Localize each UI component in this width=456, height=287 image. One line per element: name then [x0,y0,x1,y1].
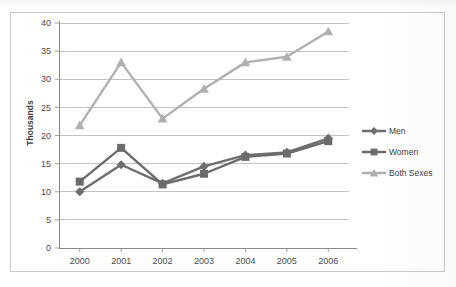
y-tick-label: 5 [46,215,51,225]
legend-label: Both Sexes [389,168,432,178]
legend-item-both-sexes[interactable]: Both Sexes [363,168,432,178]
legend-item-women[interactable]: Women [363,147,418,157]
data-point-marker [117,144,125,152]
line-chart: 0510152025303540 20002001200220032004200… [11,13,446,273]
data-point-marker [324,137,332,145]
x-tick-label: 2000 [70,256,90,266]
chart-plot-area: 0510152025303540 20002001200220032004200… [11,13,446,273]
data-point-marker [241,153,249,161]
y-tick-label: 15 [41,159,51,169]
y-tick-labels-group: 0510152025303540 [41,18,51,253]
series-both-sexes [75,27,333,130]
axes-group [59,21,357,248]
data-point-marker [323,27,333,36]
x-tick-label: 2006 [318,256,338,266]
data-point-marker [283,150,291,158]
data-point-marker [370,127,378,135]
legend-item-men[interactable]: Men [363,126,406,136]
chart-legend: MenWomenBoth Sexes [363,126,432,178]
series-line [80,31,329,125]
chart-frame: 0510152025303540 20002001200220032004200… [10,12,445,272]
x-tick-label: 2002 [153,256,173,266]
x-tick-labels-group: 2000200120022003200420052006 [70,248,339,266]
x-tick-label: 2003 [194,256,214,266]
y-tick-label: 25 [41,103,51,113]
y-tick-label: 20 [41,131,51,141]
data-point-marker [159,180,167,188]
x-tick-label: 2005 [277,256,297,266]
data-point-marker [371,149,378,156]
data-point-marker [200,170,208,178]
series-men [75,134,333,197]
y-tick-label: 0 [46,243,51,253]
x-tick-label: 2004 [235,256,255,266]
legend-label: Men [389,126,406,136]
y-tick-label: 10 [41,187,51,197]
legend-label: Women [389,147,418,157]
y-tick-label: 35 [41,46,51,56]
y-tick-label: 30 [41,74,51,84]
y-axis-title: Thousands [25,100,35,146]
gridlines-group [55,23,349,248]
x-tick-label: 2001 [111,256,131,266]
data-point-marker [116,58,126,67]
data-point-marker [199,162,208,171]
data-series-group [75,27,333,197]
y-tick-label: 40 [41,18,51,28]
data-point-marker [76,178,84,186]
